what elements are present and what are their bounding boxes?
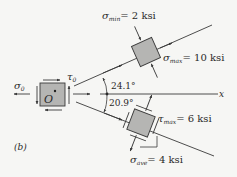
sigma-ave-leader	[140, 136, 157, 147]
tau-max-label: τmax= 6 ksi	[158, 113, 212, 125]
origin-label: O	[44, 93, 53, 106]
sigma-0-label: σ0	[14, 80, 25, 92]
sigma-ave-label: σave= 4 ksi	[130, 154, 183, 166]
x-axis	[100, 93, 218, 96]
panel-label: (b)	[14, 142, 27, 152]
sigma-max-label: σmax= 10 ksi	[163, 52, 224, 64]
tau-0-label: τ0	[67, 71, 77, 83]
stress-transformation-diagram: 24.1° 20.9° O σ0 τ0 σmin= 2 ksi σmax= 10…	[0, 0, 237, 177]
x-axis-label: x	[219, 89, 224, 99]
angle-arc-20	[104, 94, 107, 112]
sigma-min-label: σmin= 2 ksi	[102, 10, 156, 22]
angle-24-label: 24.1°	[111, 81, 136, 91]
angle-arc-24	[103, 78, 107, 94]
principal-element	[125, 22, 168, 82]
angle-20-label: 20.9°	[109, 98, 134, 108]
